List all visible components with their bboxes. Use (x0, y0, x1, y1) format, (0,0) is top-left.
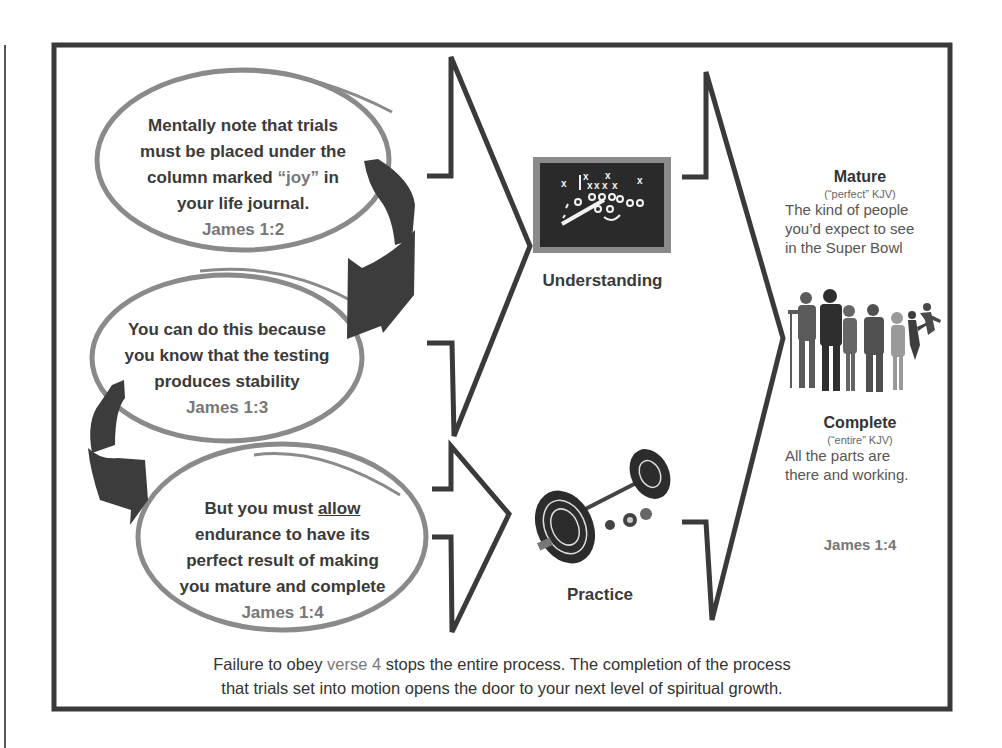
step-1-line-3: column marked “joy” in (118, 165, 368, 191)
footer-line-1-post: stops the entire process. The completion… (381, 655, 791, 673)
people-silhouettes-icon (788, 289, 941, 392)
mature-desc-1: The kind of people (785, 200, 935, 219)
complete-kjv: (“entire” KJV) (785, 434, 935, 446)
stage-label-practice: Practice (540, 585, 660, 605)
complete-title: Complete (785, 414, 935, 432)
complete-desc-2: there and working. (785, 465, 935, 484)
verse-4-highlight: verse 4 (327, 655, 381, 673)
step-1-line-4: your life journal. (118, 191, 368, 217)
step-1-line-2: must be placed under the (118, 139, 368, 165)
svg-text:x: x (587, 180, 593, 191)
stage-label-understanding: Understanding (530, 271, 675, 291)
svg-text:x: x (602, 180, 608, 191)
footer-line-2: that trials set into motion opens the do… (60, 676, 944, 700)
step-1-line-1: Mentally note that trials (118, 113, 368, 139)
blackboard-icon: xxx xxx xx (533, 157, 671, 253)
chevron-arrow-2 (682, 72, 783, 620)
svg-text:x: x (594, 180, 600, 191)
step-3-line-3: perfect result of making (160, 548, 405, 574)
step-2-line-3: produces stability (107, 369, 347, 395)
step-1-text: Mentally note that trials must be placed… (118, 113, 368, 243)
chevron-arrow-small (432, 446, 509, 632)
allow-underlined: allow (318, 499, 361, 518)
step-3-line-2: endurance to have its (160, 522, 405, 548)
footer-line-1: Failure to obey verse 4 stops the entire… (60, 652, 944, 676)
outcome-mature: Mature (“perfect” KJV) The kind of peopl… (785, 168, 935, 257)
step-2-text: You can do this because you know that th… (107, 317, 347, 421)
barbell-icon (524, 442, 679, 573)
step-2-line-1: You can do this because (107, 317, 347, 343)
step-3-line-4: you mature and complete (160, 574, 405, 600)
chevron-arrow-1 (427, 57, 530, 436)
joy-highlight: “joy” (277, 168, 319, 187)
svg-text:x: x (561, 178, 567, 189)
step-2-reference: James 1:3 (107, 395, 347, 421)
step-3-line-1-pre: But you must (205, 499, 318, 518)
mature-kjv: (“perfect” KJV) (785, 188, 935, 200)
step-1-line-3-pre: column marked (147, 168, 277, 187)
mature-desc-2: you’d expect to see (785, 219, 935, 238)
svg-text:x: x (612, 180, 618, 191)
footer-line-1-pre: Failure to obey (213, 655, 327, 673)
step-1-reference: James 1:2 (118, 217, 368, 243)
outcome-complete: Complete (“entire” KJV) All the parts ar… (785, 414, 935, 484)
step-3-text: But you must allow endurance to have its… (160, 496, 405, 626)
mature-title: Mature (785, 168, 935, 186)
step-3-line-1: But you must allow (160, 496, 405, 522)
complete-desc-1: All the parts are (785, 446, 935, 465)
step-2-line-2: you know that the testing (107, 343, 347, 369)
footer-note: Failure to obey verse 4 stops the entire… (60, 652, 944, 700)
step-3-reference: James 1:4 (160, 600, 405, 626)
svg-text:x: x (637, 175, 643, 186)
mature-desc-3: in the Super Bowl (785, 238, 935, 257)
step-1-line-3-post: in (319, 168, 339, 187)
outcome-reference: James 1:4 (795, 536, 925, 553)
